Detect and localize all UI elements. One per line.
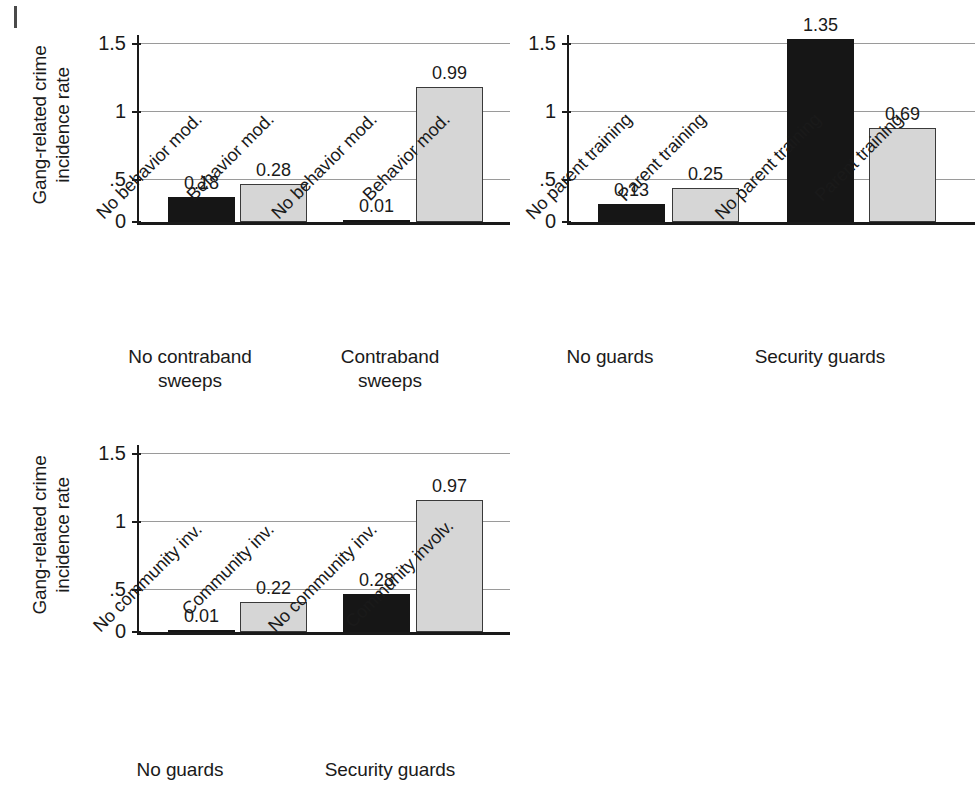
y-axis-title-a-line-2: incidence rate	[51, 25, 74, 225]
y-axis-line-b	[567, 35, 569, 223]
y-tick-label-b-1.5: 1.5	[508, 32, 556, 55]
bar-a-3[interactable]	[416, 87, 483, 222]
group-label-a-1: Contraband sweeps	[290, 345, 490, 393]
bar-c-3[interactable]	[416, 500, 483, 632]
group-label-a-0-line-2: sweeps	[90, 369, 290, 393]
y-axis-title-a-line-1: Gang-related crime	[28, 25, 51, 225]
group-label-a-1-line-1: Contraband	[290, 345, 490, 369]
gridline-b-1.5	[567, 43, 975, 44]
bar-value-c-3: 0.97	[409, 476, 490, 497]
group-label-a-0-line-1: No contraband	[90, 345, 290, 369]
group-label-b-1: Security guards	[720, 345, 920, 369]
group-label-c-1-line-1: Security guards	[290, 758, 490, 782]
y-tick-b-1	[562, 111, 571, 113]
y-tick-a-0	[132, 221, 141, 223]
y-axis-title-c-line-2: incidence rate	[51, 435, 74, 635]
y-tick-label-c-1.5: 1.5	[78, 442, 126, 465]
y-axis-title-c: Gang-related crime incidence rate	[28, 435, 74, 635]
gridline-c-1.5	[137, 453, 510, 454]
y-tick-b-0	[562, 221, 571, 223]
group-label-a-1-line-2: sweeps	[290, 369, 490, 393]
group-label-c-0: No guards	[80, 758, 280, 782]
bar-value-b-2: 1.35	[780, 15, 861, 36]
group-label-b-1-line-1: Security guards	[720, 345, 920, 369]
y-tick-label-a-1: 1	[78, 100, 126, 123]
y-tick-a-1.5	[132, 43, 141, 45]
y-tick-a-1	[132, 111, 141, 113]
group-label-b-0-line-1: No guards	[510, 345, 710, 369]
group-label-c-1: Security guards	[290, 758, 490, 782]
y-tick-c-0	[132, 631, 141, 633]
y-tick-label-a-1.5: 1.5	[78, 32, 126, 55]
y-tick-label-b-1: 1	[508, 100, 556, 123]
y-axis-line-c	[137, 445, 139, 633]
bar-value-b-1: 0.25	[665, 164, 746, 185]
chart-panel-b: 1.5 1 .5 0 0.13 0.25 1.35 0.69 No parent…	[490, 0, 980, 410]
y-axis-line-a	[137, 35, 139, 223]
y-tick-b-1.5	[562, 43, 571, 45]
y-axis-title-c-line-1: Gang-related crime	[28, 435, 51, 635]
bar-value-a-3: 0.99	[409, 63, 490, 84]
chart-panel-c: Gang-related crime incidence rate 1.5 1 …	[0, 410, 510, 806]
y-axis-title-a: Gang-related crime incidence rate	[28, 25, 74, 225]
y-tick-c-1.5	[132, 453, 141, 455]
x-axis-line-b	[567, 222, 975, 225]
y-tick-label-c-1: 1	[78, 510, 126, 533]
group-label-c-0-line-1: No guards	[80, 758, 280, 782]
group-label-b-0: No guards	[510, 345, 710, 369]
y-tick-c-1	[132, 521, 141, 523]
chart-panel-a: Gang-related crime incidence rate 1.5 1 …	[0, 0, 510, 410]
gridline-a-1.5	[137, 43, 510, 44]
group-label-a-0: No contraband sweeps	[90, 345, 290, 393]
